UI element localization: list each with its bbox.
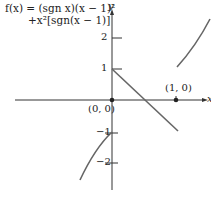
y-tick-label-minus-2: −2 bbox=[96, 156, 111, 167]
y-tick-label-minus-1: −1 bbox=[96, 126, 111, 137]
x-axis-label: x bbox=[207, 93, 211, 104]
y-tick-label-2: 2 bbox=[101, 31, 107, 42]
point-origin bbox=[110, 98, 115, 103]
origin-label: (0, 0) bbox=[88, 103, 115, 114]
point-1-0-label: (1, 0) bbox=[165, 82, 192, 93]
y-tick-label-1: 1 bbox=[101, 62, 107, 73]
point-1-0 bbox=[174, 98, 179, 103]
y-axis-label: y bbox=[108, 0, 114, 11]
curve-right-branch bbox=[177, 19, 210, 67]
